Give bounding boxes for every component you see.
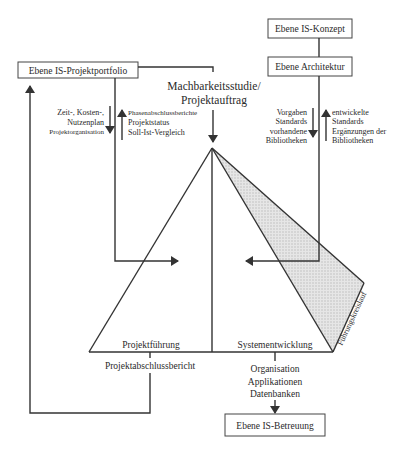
svg-text:Zeit-, Kosten-,: Zeit-, Kosten-,: [57, 108, 104, 117]
svg-text:Vorgaben: Vorgaben: [277, 108, 307, 117]
label-systementwicklung: Systementwicklung: [238, 340, 313, 350]
box-architektur-label: Ebene Architektur: [275, 62, 345, 72]
box-betreuung-label: Ebene IS-Betreuung: [236, 421, 314, 431]
right-down-labels: Vorgaben Standards vorhandene Bibliothek…: [266, 108, 308, 145]
connector-portfolio-machbarkeit: [138, 67, 213, 72]
svg-text:Standards: Standards: [275, 117, 307, 126]
svg-text:Projektorganisation: Projektorganisation: [49, 128, 104, 136]
arrow-portfolio-to-projektfuehrung: [115, 78, 178, 261]
right-up-labels: entwickelte Standards Ergänzungen der Bi…: [332, 108, 387, 145]
label-output-organisation: Organisation: [251, 364, 300, 374]
svg-text:Standards: Standards: [332, 117, 364, 126]
svg-text:Bibliotheken: Bibliotheken: [266, 136, 307, 145]
svg-text:Projektstatus: Projektstatus: [128, 118, 169, 127]
svg-text:Phasenabschlussberichte: Phasenabschlussberichte: [128, 109, 197, 117]
svg-text:Bibliotheken: Bibliotheken: [332, 136, 373, 145]
svg-text:entwickelte: entwickelte: [332, 108, 369, 117]
label-output-datenbanken: Datenbanken: [250, 389, 300, 399]
svg-text:vorhandene: vorhandene: [270, 127, 308, 136]
label-projektfuehrung: Projektführung: [122, 340, 180, 350]
svg-text:Ergänzungen der: Ergänzungen der: [332, 127, 387, 136]
left-down-labels: Zeit-, Kosten-, Nutzenplan Projektorgani…: [49, 108, 104, 136]
label-projektabschlussbericht: Projektabschlussbericht: [105, 361, 196, 371]
svg-text:Nutzenplan: Nutzenplan: [67, 118, 104, 127]
label-output-applikationen: Applikationen: [248, 377, 303, 387]
box-konzept-label: Ebene IS-Konzept: [275, 24, 345, 34]
label-machbarkeitsstudie: Machbarkeitsstudie/: [167, 80, 261, 92]
diagram-canvas: Ebene IS-Projektportfolio Machbarkeitsst…: [0, 0, 405, 460]
triangle-left-edge: [89, 148, 212, 352]
box-projektportfolio-label: Ebene IS-Projektportfolio: [29, 66, 128, 76]
fuehrungskreislauf-shade: [212, 148, 364, 352]
label-projektauftrag: Projektauftrag: [181, 94, 247, 107]
left-up-labels: Phasenabschlussberichte Projektstatus So…: [128, 109, 197, 137]
svg-text:Soll-Ist-Vergleich: Soll-Ist-Vergleich: [128, 128, 185, 137]
